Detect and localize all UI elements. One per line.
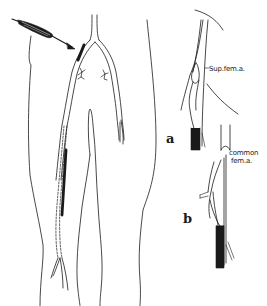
label-common-femoral-artery-line2: fem.a. (231, 158, 252, 165)
vessel-branches (78, 68, 108, 80)
panel-label-b: b (183, 212, 192, 225)
figure-canvas: Sup.fem.a. common fem.a. a b (0, 0, 267, 306)
inset-a (181, 10, 238, 150)
illustration (0, 0, 267, 306)
panel-label-a: a (166, 132, 174, 145)
label-common-femoral-artery-line1: common (229, 150, 258, 157)
label-superficial-femoral-artery: Sup.fem.a. (209, 66, 245, 73)
femoral-catheter (51, 126, 68, 290)
needle-instrument (12, 19, 75, 49)
leg-outline (28, 20, 156, 306)
